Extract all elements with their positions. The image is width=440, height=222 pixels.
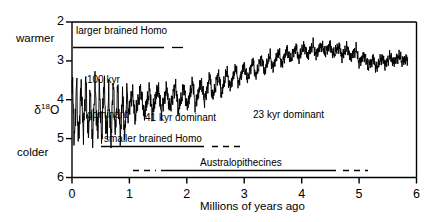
colder-label: colder xyxy=(17,147,48,159)
delta-superscript-18: 18 xyxy=(41,102,50,111)
oxygen-symbol: O xyxy=(50,103,59,117)
x-tick-label-2: 2 xyxy=(177,188,197,201)
y-tick-marks xyxy=(66,22,72,178)
x-axis-title: Millions of years ago xyxy=(200,201,305,213)
oxygen-isotope-figure: 2 3 4 5 6 0 1 2 3 4 5 6 warmer colder δ1… xyxy=(0,0,440,222)
annotation-australopithecines: Australopithecines xyxy=(200,158,282,168)
warmer-label: warmer xyxy=(16,33,54,45)
x-tick-label-5: 5 xyxy=(349,188,369,201)
y-tick-label-3: 3 xyxy=(44,54,64,67)
y-tick-label-5: 5 xyxy=(44,132,64,145)
annotation-100-kyr-line1: 100 kyr xyxy=(87,74,128,86)
y-tick-label-2: 2 xyxy=(44,15,64,28)
y-axis-title: δ18O xyxy=(21,92,59,128)
x-tick-label-0: 0 xyxy=(62,188,82,201)
y-tick-label-6: 6 xyxy=(44,171,64,184)
x-tick-marks xyxy=(72,178,417,184)
x-tick-label-1: 1 xyxy=(119,188,139,201)
annotation-smaller-brained-homo: smaller brained Homo xyxy=(104,134,202,144)
annotation-100-kyr-line2: dominant xyxy=(87,109,128,121)
annotation-100-kyr-dominant: 100 kyr dominant xyxy=(87,51,128,143)
x-tick-label-6: 6 xyxy=(407,188,427,201)
annotation-larger-brained-homo: larger brained Homo xyxy=(76,26,167,36)
x-tick-label-4: 4 xyxy=(292,188,312,201)
x-tick-label-3: 3 xyxy=(234,188,254,201)
annotation-41-kyr-dominant: 41 kyr dominant xyxy=(145,113,216,123)
annotation-23-kyr-dominant: 23 kyr dominant xyxy=(253,110,324,120)
